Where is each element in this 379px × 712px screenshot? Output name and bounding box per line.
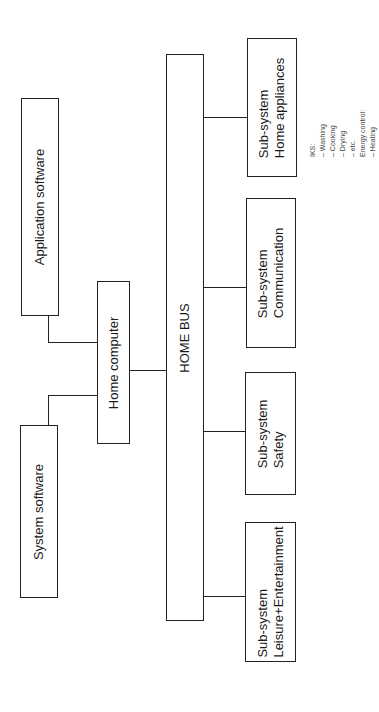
- home-computer-label: Home computer: [106, 316, 122, 408]
- connector-bus-leisure: [203, 596, 245, 597]
- connector-bus-safety: [203, 431, 245, 432]
- subsystem-communication-line1: Sub-system: [255, 228, 271, 318]
- home-bus-architecture-diagram: Application software System software Hom…: [0, 0, 379, 712]
- iks-annotation: IKS: – Washing – Cooking – Drying – etc.…: [308, 110, 378, 157]
- connector-app-software-down: [48, 315, 49, 343]
- subsystem-communication-box: Sub-system Communication: [246, 198, 296, 348]
- subsystem-appliances-line2: Home appliances: [272, 57, 288, 157]
- subsystem-safety-box: Sub-system Safety: [245, 372, 296, 495]
- iks-line: – Drying: [338, 110, 348, 157]
- iks-line: – Heating: [368, 110, 378, 157]
- connector-sys-software-across: [48, 395, 97, 396]
- connector-app-software-across: [48, 342, 97, 343]
- subsystem-appliances-line1: Sub-system: [256, 57, 272, 157]
- iks-line: – etc.: [348, 110, 358, 157]
- application-software-label: Application software: [32, 149, 48, 265]
- home-bus-label: HOME BUS: [177, 303, 193, 372]
- system-software-label: System software: [31, 463, 47, 559]
- subsystem-leisure-line2: Leisure+Entertainment: [271, 526, 287, 657]
- iks-line: – Washing: [318, 110, 328, 157]
- iks-line: IKS:: [308, 110, 318, 157]
- connector-sys-software-up: [48, 395, 49, 426]
- system-software-box: System software: [20, 425, 58, 598]
- subsystem-leisure-entertainment-box: Sub-system Leisure+Entertainment: [245, 522, 296, 662]
- home-bus-box: HOME BUS: [166, 54, 204, 621]
- subsystem-leisure-line1: Sub-system: [255, 526, 271, 657]
- iks-line: Energy control:: [358, 110, 368, 157]
- connector-computer-bus: [129, 370, 166, 371]
- connector-bus-communication: [203, 287, 246, 288]
- subsystem-home-appliances-box: Sub-system Home appliances: [247, 38, 297, 177]
- connector-bus-appliances: [203, 117, 247, 118]
- iks-line: – Cooking: [328, 110, 338, 157]
- subsystem-safety-line1: Sub-system: [255, 399, 271, 468]
- subsystem-communication-line2: Communication: [271, 228, 287, 318]
- home-computer-box: Home computer: [97, 281, 130, 444]
- subsystem-safety-line2: Safety: [271, 399, 287, 468]
- application-software-box: Application software: [21, 98, 59, 316]
